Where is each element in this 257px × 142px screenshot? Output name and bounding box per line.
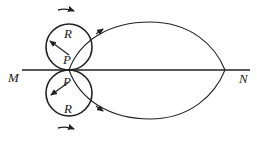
label-M: M bbox=[7, 70, 20, 85]
label-P-bottom: P bbox=[62, 74, 71, 89]
label-P-top: P bbox=[62, 52, 71, 67]
label-R-top: R bbox=[63, 26, 72, 41]
diagram-canvas: M N P P R R bbox=[0, 0, 257, 142]
label-R-bottom: R bbox=[63, 101, 72, 116]
rotation-arrow-top-icon bbox=[58, 9, 74, 11]
rotation-arrow-bottom-icon bbox=[58, 127, 74, 129]
label-N: N bbox=[238, 71, 249, 86]
